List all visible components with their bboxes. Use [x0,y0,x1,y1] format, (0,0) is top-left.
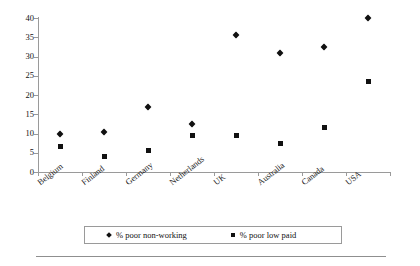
data-point [366,79,371,84]
data-point [144,103,151,110]
data-point [234,133,239,138]
data-point [58,144,63,149]
x-tick [258,172,259,176]
legend-label: % poor low paid [240,231,296,240]
x-tick [302,172,303,176]
legend-label: % poor non-working [116,231,187,240]
y-tick-label: 35 [0,33,42,42]
diamond-marker-icon [106,232,112,238]
data-point [146,148,151,153]
y-tick-label: 0 [0,168,42,177]
legend-item-poor-non-working: % poor non-working [107,231,187,240]
footer-divider [36,256,386,257]
y-tick-label: 40 [0,14,42,23]
data-point [190,133,195,138]
data-point [100,128,107,135]
data-point [364,14,371,21]
y-tick-label: 5 [0,148,42,157]
y-tick-label: 30 [0,52,42,61]
x-tick [38,172,39,176]
x-tick [214,172,215,176]
data-point [102,154,107,159]
data-point [188,120,195,127]
data-point [320,43,327,50]
x-tick [126,172,127,176]
data-point [276,49,283,56]
x-tick [82,172,83,176]
y-tick-label: 10 [0,129,42,138]
data-point [56,130,63,137]
x-tick [390,172,391,176]
x-tick [170,172,171,176]
data-point [278,141,283,146]
chart-legend: % poor non-working % poor low paid [84,226,342,244]
legend-item-poor-low-paid: % poor low paid [231,231,296,240]
data-point [232,32,239,39]
x-tick [346,172,347,176]
y-tick-label: 25 [0,71,42,80]
plot-area [38,18,390,172]
square-marker-icon [231,233,235,237]
y-tick-label: 20 [0,91,42,100]
data-point [322,125,327,130]
scatter-chart: 0510152025303540 BelgiumFinlandGermanyNe… [0,0,420,266]
y-tick-label: 15 [0,110,42,119]
